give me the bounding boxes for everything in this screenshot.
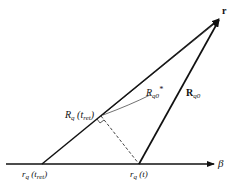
vector-Rq0-star — [101, 21, 218, 116]
rq-t-arg: (t) — [139, 169, 148, 179]
label-Rq-tret: Rq (tret) — [65, 110, 94, 122]
label-rq-tret: rq (tret) — [22, 170, 47, 181]
Rq0-bold-sub: q0 — [193, 92, 200, 100]
diagram-canvas: r β Rq (tret) Rq0* Rq0 rq (tret) rq (t) — [0, 0, 236, 185]
right-angle-marker — [97, 119, 104, 123]
Rq-tret-arg-sub: ret — [83, 114, 91, 122]
label-Rq0-star: Rq0* — [146, 86, 163, 100]
label-beta: β — [218, 158, 223, 169]
label-r: r — [222, 6, 226, 16]
perpendicular-dashed — [101, 116, 139, 164]
label-rq-t: rq (t) — [130, 170, 148, 181]
Rq-tret-close: ) — [91, 109, 94, 120]
Rq0-star-brace — [103, 95, 150, 115]
rq-t-sub: q — [134, 173, 138, 181]
Rq0-star-sup: * — [159, 85, 163, 94]
Rq-tret-sub: q — [71, 114, 75, 122]
label-Rq0-bold: Rq0 — [186, 88, 200, 100]
rq-tret-sub: q — [26, 173, 30, 181]
rq-tret-close: ) — [44, 169, 47, 179]
diagram-lines — [0, 0, 236, 185]
